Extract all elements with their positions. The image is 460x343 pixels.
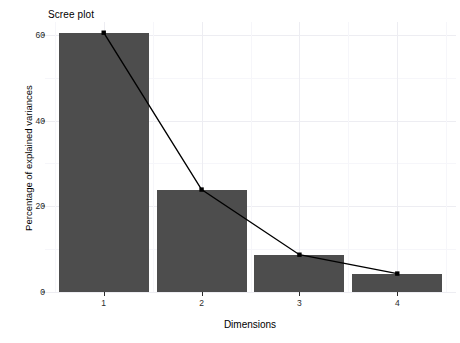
scree-plot-figure: Scree plot Percentage of explained varia… [0, 0, 460, 343]
x-tick-mark [202, 292, 203, 296]
bar [157, 190, 247, 292]
gridline-vertical-minor [55, 22, 56, 292]
gridline-vertical-minor [153, 22, 154, 292]
x-tick-label: 1 [92, 298, 116, 308]
bar [254, 255, 344, 292]
plot-panel [45, 22, 456, 292]
x-tick-mark [397, 292, 398, 296]
x-axis-title: Dimensions [45, 319, 455, 330]
bar [352, 274, 442, 292]
gridline-vertical-minor [348, 22, 349, 292]
x-tick-label: 3 [287, 298, 311, 308]
x-tick-label: 4 [385, 298, 409, 308]
chart-title: Scree plot [48, 9, 94, 20]
y-tick-mark [42, 34, 45, 35]
bar [59, 33, 149, 292]
x-tick-mark [299, 292, 300, 296]
y-axis-tick-marks [41, 22, 45, 292]
y-axis-tick-labels: 0204060 [8, 22, 45, 292]
y-tick-mark [42, 120, 45, 121]
gridline-vertical-minor [446, 22, 447, 292]
gridline-vertical-major [299, 22, 300, 292]
x-tick-label: 2 [190, 298, 214, 308]
x-tick-mark [104, 292, 105, 296]
gridline-vertical-minor [251, 22, 252, 292]
gridline-vertical-major [397, 22, 398, 292]
y-tick-mark [42, 206, 45, 207]
x-axis-tick-labels: 1234 [45, 292, 456, 314]
